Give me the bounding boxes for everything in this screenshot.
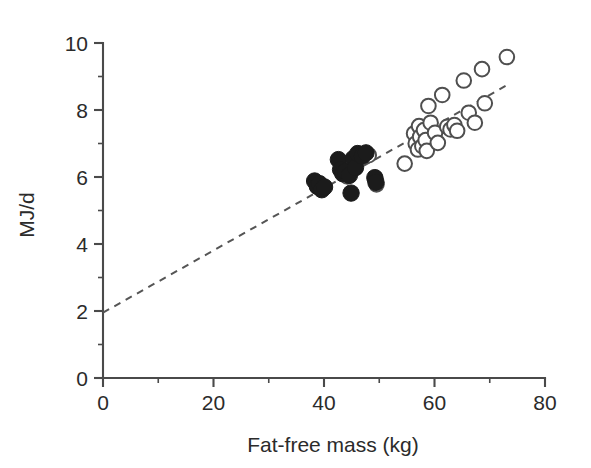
y-tick-label: 10 xyxy=(65,32,88,55)
data-point-filled xyxy=(358,145,374,161)
y-axis-title: MJ/d xyxy=(15,192,38,238)
x-tick-label: 20 xyxy=(202,391,225,414)
x-tick-label: 0 xyxy=(97,391,109,414)
axis-tick-labels: 0246810020406080 xyxy=(65,32,557,415)
data-point-open xyxy=(421,99,436,114)
data-point-open xyxy=(477,96,492,111)
y-tick-label: 8 xyxy=(76,99,88,122)
data-point-open xyxy=(475,62,490,77)
axes xyxy=(94,43,545,387)
x-tick-label: 40 xyxy=(312,391,335,414)
x-axis-title: Fat-free mass (kg) xyxy=(247,433,419,456)
data-series-filled-circles xyxy=(306,145,384,202)
chart-canvas: 0246810020406080 Fat-free mass (kg) MJ/d xyxy=(0,0,591,468)
data-point-open xyxy=(456,73,471,88)
data-point-open xyxy=(500,50,515,65)
x-tick-label: 60 xyxy=(423,391,446,414)
data-point-filled xyxy=(316,179,332,195)
y-tick-label: 2 xyxy=(76,300,88,323)
scatter-plot-figure: 0246810020406080 Fat-free mass (kg) MJ/d xyxy=(0,0,591,468)
x-tick-label: 80 xyxy=(533,391,556,414)
data-point-filled xyxy=(368,174,384,190)
data-point-open xyxy=(450,123,465,138)
y-tick-label: 6 xyxy=(76,166,88,189)
data-point-open xyxy=(397,156,412,171)
data-point-open xyxy=(468,115,483,130)
y-tick-label: 0 xyxy=(76,367,88,390)
data-point-filled xyxy=(343,185,359,201)
data-point-open xyxy=(431,136,446,151)
y-tick-label: 4 xyxy=(76,233,88,256)
data-point-open xyxy=(435,88,450,103)
